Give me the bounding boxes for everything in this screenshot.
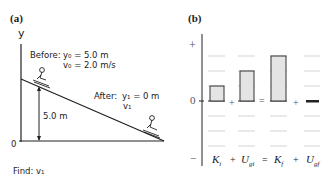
label-k-final: Kf — [274, 153, 283, 168]
axis-zero: 0 — [190, 94, 196, 106]
bar-ug-initial — [240, 71, 254, 101]
bar-k-final — [271, 56, 286, 101]
operator-plus-2: + — [293, 97, 299, 108]
label-k-initial: Ki — [212, 153, 221, 168]
bar-ug-final — [306, 100, 319, 103]
bar-k-initial — [210, 86, 224, 101]
eq-plus-2: + — [293, 154, 299, 165]
operator-equals: = — [259, 95, 265, 106]
label-ug-final: Ugf — [306, 153, 319, 168]
operator-plus-1: + — [229, 97, 235, 108]
label-ug-initial: Ugi — [241, 153, 254, 168]
eq-equals: = — [262, 154, 268, 165]
eq-plus-1: + — [230, 154, 236, 165]
axis-minus: − — [190, 152, 196, 164]
axis-plus: + — [189, 38, 196, 53]
